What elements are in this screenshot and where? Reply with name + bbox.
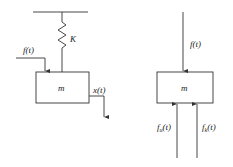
free-body-diagram: f(t) m fu(t) fk(t) [157,12,216,158]
displacement-arrow [89,96,104,117]
spring-force-label: fk(t) [202,122,216,133]
spring-icon [58,12,66,72]
diagram-canvas: K m f(t) x(t) f(t) m fu(t) fk(t) [0,0,233,167]
spring-mass-system: K m f(t) x(t) [16,12,106,117]
spring-constant-label: K [69,34,77,44]
mass-label-fbd: m [181,83,188,93]
damping-force-label: fu(t) [157,122,171,133]
applied-force-label: f(t) [23,45,34,55]
applied-force-arrow [16,58,45,71]
displacement-label: x(t) [92,85,106,95]
mass-label: m [58,83,65,93]
applied-force-label-fbd: f(t) [190,39,201,49]
